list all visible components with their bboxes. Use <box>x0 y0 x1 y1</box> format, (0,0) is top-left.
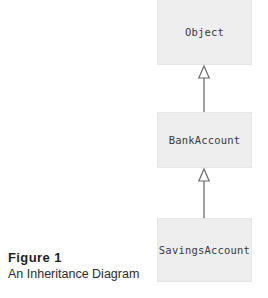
inheritance-arrow-savingsaccount-to-bankaccount <box>196 168 212 218</box>
inheritance-diagram-figure: Object BankAccount SavingsAccount Figure… <box>0 0 268 298</box>
figure-caption: Figure 1 An Inheritance Diagram <box>8 250 148 282</box>
class-box-bankaccount-label: BankAccount <box>169 134 241 146</box>
class-box-savingsaccount: SavingsAccount <box>157 218 252 282</box>
inheritance-arrow-bankaccount-to-object <box>196 65 212 112</box>
class-box-bankaccount: BankAccount <box>157 112 252 168</box>
class-box-savingsaccount-label: SavingsAccount <box>159 244 250 256</box>
figure-caption-subtitle: An Inheritance Diagram <box>8 266 148 282</box>
class-box-object-label: Object <box>185 26 224 38</box>
figure-caption-title: Figure 1 <box>8 250 148 266</box>
class-box-object: Object <box>157 0 252 65</box>
